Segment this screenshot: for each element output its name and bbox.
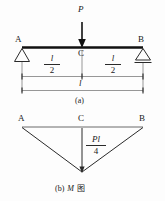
roller-support-b bbox=[135, 49, 152, 63]
node-label-a: A bbox=[15, 35, 22, 44]
caption-panel-b-prefix: (b) bbox=[55, 185, 64, 193]
node-label-b: B bbox=[138, 35, 144, 44]
caption-panel-a: (a) bbox=[75, 97, 84, 105]
dimension-half-span-right: l 2 bbox=[105, 54, 121, 75]
moment-peak-denominator: 4 bbox=[86, 147, 106, 156]
moment-peak-value: Pl 4 bbox=[86, 135, 106, 156]
caption-panel-b-suffix: 图 bbox=[77, 185, 85, 193]
caption-panel-b-symbol: M bbox=[67, 185, 74, 193]
caption-panel-b: (b) M 图 bbox=[55, 185, 85, 193]
pinned-support-a bbox=[15, 49, 30, 62]
node-label-c: C bbox=[78, 49, 84, 58]
dimension-line-halves bbox=[22, 74, 143, 80]
dimension-half-right-denominator: 2 bbox=[105, 66, 121, 75]
dimension-half-left-numerator: l bbox=[44, 54, 60, 63]
point-load-arrow bbox=[78, 22, 86, 48]
moment-node-label-a: A bbox=[18, 114, 25, 123]
load-label-p: P bbox=[78, 5, 84, 14]
moment-node-label-b: B bbox=[139, 114, 145, 123]
dimension-half-span-left: l 2 bbox=[44, 54, 60, 75]
dimension-half-right-numerator: l bbox=[105, 54, 121, 63]
dimension-line-full-span bbox=[22, 88, 143, 94]
moment-ordinate-line bbox=[79, 128, 84, 173]
dimension-half-left-denominator: 2 bbox=[44, 66, 60, 75]
moment-peak-numerator: Pl bbox=[86, 135, 106, 144]
dimension-full-span-label: l bbox=[79, 79, 82, 88]
moment-node-label-c: C bbox=[78, 114, 84, 123]
